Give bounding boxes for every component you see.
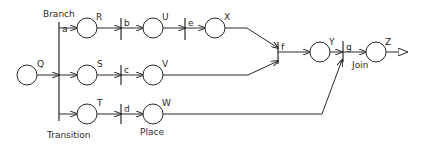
place-w-label: W bbox=[162, 98, 171, 108]
place-u-label: U bbox=[162, 12, 169, 22]
place-r-label: R bbox=[96, 12, 102, 22]
place-s-label: S bbox=[97, 59, 103, 69]
place-y bbox=[310, 42, 330, 62]
place-s bbox=[77, 65, 97, 85]
transition-e-label: e bbox=[188, 18, 194, 28]
petri-net-diagram: Q R S T U V W X Y Z a b c d e f g Branch… bbox=[0, 0, 425, 144]
place-v-label: V bbox=[162, 59, 169, 69]
transition-f-label: f bbox=[281, 42, 285, 52]
place-q-label: Q bbox=[37, 59, 44, 69]
place-annotation: Place bbox=[140, 127, 164, 137]
transition-b-label: b bbox=[124, 18, 130, 28]
place-y-label: Y bbox=[328, 37, 335, 47]
place-t-label: T bbox=[96, 98, 103, 108]
transition-a-label: a bbox=[62, 24, 68, 34]
transition-annotation: Transition bbox=[46, 130, 91, 140]
join-annotation: Join bbox=[351, 60, 368, 70]
transition-d-label: d bbox=[124, 104, 130, 114]
transition-c-label: c bbox=[124, 65, 129, 75]
place-q bbox=[17, 65, 37, 85]
branch-annotation: Branch bbox=[43, 9, 75, 19]
place-z-label: Z bbox=[385, 37, 391, 47]
place-u bbox=[143, 18, 163, 38]
place-r bbox=[77, 18, 97, 38]
place-z bbox=[366, 42, 386, 62]
place-v bbox=[143, 65, 163, 85]
place-x-label: X bbox=[224, 12, 230, 22]
place-x bbox=[205, 18, 225, 38]
place-w bbox=[143, 104, 163, 124]
place-t bbox=[77, 104, 97, 124]
transition-g-label: g bbox=[346, 42, 352, 52]
